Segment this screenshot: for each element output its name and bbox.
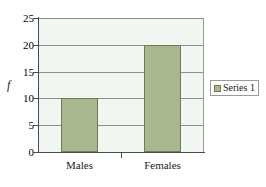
- plot-inner: [38, 18, 203, 152]
- y-axis-title: f: [7, 79, 10, 91]
- legend-label-series-1: Series 1: [223, 83, 255, 93]
- plot-area: [38, 18, 204, 152]
- x-category-label-females: Females: [121, 160, 204, 171]
- bar-chart-figure: f 0510152025 Series 1 MalesFemales: [0, 0, 266, 187]
- y-tick-label-row: 0: [14, 152, 34, 153]
- y-axis-tick-labels: 0510152025: [14, 18, 34, 152]
- y-tick-mark: [33, 18, 39, 19]
- y-tick-mark: [33, 98, 39, 99]
- x-tick-mark: [121, 153, 122, 158]
- y-axis-line: [38, 17, 39, 153]
- y-tick-mark: [33, 45, 39, 46]
- y-tick-label-row: 20: [14, 45, 34, 46]
- x-category-label-males: Males: [38, 160, 121, 171]
- y-tick-label-row: 15: [14, 72, 34, 73]
- y-tick-mark: [33, 125, 39, 126]
- y-tick-label-row: 25: [14, 18, 34, 19]
- y-tick-mark: [33, 72, 39, 73]
- y-tick-mark: [33, 152, 39, 153]
- legend-swatch-series-1: [214, 85, 221, 92]
- bar-females: [144, 45, 181, 152]
- chart-legend: Series 1: [210, 80, 259, 96]
- gridline: [38, 18, 203, 19]
- bar-males: [61, 98, 98, 152]
- y-tick-label-row: 10: [14, 98, 34, 99]
- y-tick-label-row: 5: [14, 125, 34, 126]
